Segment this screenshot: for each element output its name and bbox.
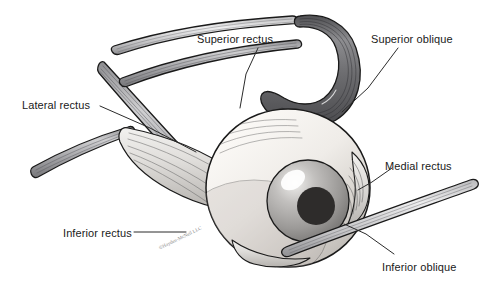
leader-superior-rectus <box>240 48 258 108</box>
label-superior-rectus: Superior rectus <box>197 33 273 45</box>
label-superior-oblique: Superior oblique <box>371 33 453 45</box>
label-inferior-oblique: Inferior oblique <box>382 261 456 273</box>
pupil <box>297 187 335 225</box>
label-lateral-rectus: Lateral rectus <box>22 99 90 111</box>
label-inferior-rectus: Inferior rectus <box>63 227 132 239</box>
label-medial-rectus: Medial rectus <box>385 160 452 172</box>
eye-muscle-diagram: Superior rectus Superior oblique Lateral… <box>0 0 498 289</box>
superior-rectus-band <box>119 40 301 87</box>
